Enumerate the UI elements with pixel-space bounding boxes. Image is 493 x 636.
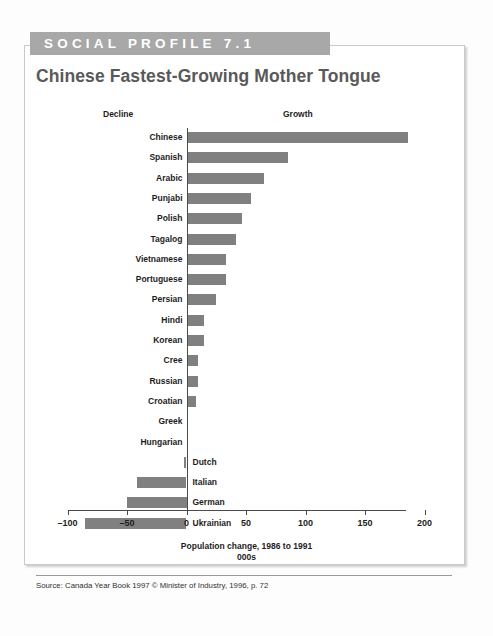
bar-label-vietnamese: Vietnamese xyxy=(135,253,182,265)
bar-label-croatian: Croatian xyxy=(148,395,182,407)
source-divider xyxy=(36,575,452,576)
x-tick xyxy=(68,510,69,515)
bar-russian[interactable] xyxy=(187,376,199,387)
bar-label-dutch: Dutch xyxy=(193,456,217,468)
x-tick xyxy=(365,510,366,515)
zero-axis-line xyxy=(187,128,188,510)
bar-italian[interactable] xyxy=(137,477,187,488)
bar-label-cree: Cree xyxy=(164,354,183,366)
bar-label-tagalog: Tagalog xyxy=(151,233,183,245)
bar-label-italian: Italian xyxy=(193,476,218,488)
bar-ukrainian[interactable] xyxy=(85,518,186,529)
bar-label-portuguese: Portuguese xyxy=(136,273,183,285)
x-axis-title-line1: Population change, 1986 to 1991 xyxy=(181,541,312,551)
x-tick-label: –100 xyxy=(57,518,77,528)
chart-row: Persian xyxy=(0,290,493,310)
chart-row: Vietnamese xyxy=(0,250,493,270)
x-tick-label: 200 xyxy=(417,518,432,528)
x-tick-label: 0 xyxy=(184,518,189,528)
chart-row: Polish xyxy=(0,209,493,229)
chart-row: Arabic xyxy=(0,169,493,189)
decline-header: Decline xyxy=(103,109,133,119)
bar-hindi[interactable] xyxy=(187,315,205,326)
source-note: Source: Canada Year Book 1997 © Minister… xyxy=(36,581,268,590)
social-profile-page: SOCIAL PROFILE 7.1 Chinese Fastest-Growi… xyxy=(0,0,493,636)
bar-cree[interactable] xyxy=(187,355,199,366)
bar-polish[interactable] xyxy=(187,213,243,224)
banner-label: SOCIAL PROFILE 7.1 xyxy=(44,36,255,51)
plot-area: ChineseSpanishArabicPunjabiPolishTagalog… xyxy=(0,128,493,510)
bar-label-persian: Persian xyxy=(152,293,183,305)
bar-label-arabic: Arabic xyxy=(156,172,182,184)
x-tick-label: 150 xyxy=(357,518,372,528)
bar-german[interactable] xyxy=(127,497,187,508)
bar-chinese[interactable] xyxy=(187,132,408,143)
chart-row: Cree xyxy=(0,351,493,371)
bar-label-hungarian: Hungarian xyxy=(140,436,182,448)
bar-label-hindi: Hindi xyxy=(161,314,182,326)
chart-row: Tagalog xyxy=(0,230,493,250)
x-tick xyxy=(187,510,188,515)
banner-bar: SOCIAL PROFILE 7.1 xyxy=(30,32,330,55)
bar-label-russian: Russian xyxy=(149,375,182,387)
bar-croatian[interactable] xyxy=(187,396,197,407)
bar-korean[interactable] xyxy=(187,335,205,346)
bar-label-greek: Greek xyxy=(158,415,182,427)
chart-row: Greek xyxy=(0,412,493,432)
bar-tagalog[interactable] xyxy=(187,234,237,245)
x-tick-label: –50 xyxy=(119,518,134,528)
bar-label-german: German xyxy=(193,496,225,508)
chart-row: Chinese xyxy=(0,128,493,148)
x-tick xyxy=(306,510,307,515)
chart-row: Croatian xyxy=(0,392,493,412)
x-axis-line xyxy=(68,510,406,511)
growth-header: Growth xyxy=(283,109,313,119)
x-axis-title-line2: 000s xyxy=(0,552,493,562)
bar-label-punjabi: Punjabi xyxy=(152,192,183,204)
chart-row: Portuguese xyxy=(0,270,493,290)
bar-label-spanish: Spanish xyxy=(149,151,182,163)
x-tick xyxy=(127,510,128,515)
bar-label-chinese: Chinese xyxy=(149,131,182,143)
bar-spanish[interactable] xyxy=(187,152,288,163)
bar-label-polish: Polish xyxy=(157,212,183,224)
bar-punjabi[interactable] xyxy=(187,193,251,204)
chart-row: Hungarian xyxy=(0,433,493,453)
chart-row: Punjabi xyxy=(0,189,493,209)
chart-row: Italian xyxy=(0,473,493,493)
chart-row: Hindi xyxy=(0,311,493,331)
chart-row: Dutch xyxy=(0,453,493,473)
x-tick-label: 50 xyxy=(241,518,251,528)
x-tick xyxy=(246,510,247,515)
bar-portuguese[interactable] xyxy=(187,274,226,285)
chart-row: Russian xyxy=(0,372,493,392)
bar-label-ukrainian: Ukrainian xyxy=(193,517,232,529)
chart-row: Korean xyxy=(0,331,493,351)
bar-label-korean: Korean xyxy=(153,334,182,346)
chart-row: Spanish xyxy=(0,148,493,168)
bar-vietnamese[interactable] xyxy=(187,254,226,265)
x-tick xyxy=(425,510,426,515)
bar-arabic[interactable] xyxy=(187,173,264,184)
x-tick-label: 100 xyxy=(298,518,313,528)
page-title: Chinese Fastest-Growing Mother Tongue xyxy=(36,66,381,87)
x-axis-title: Population change, 1986 to 1991 000s xyxy=(0,541,493,562)
bar-persian[interactable] xyxy=(187,294,217,305)
